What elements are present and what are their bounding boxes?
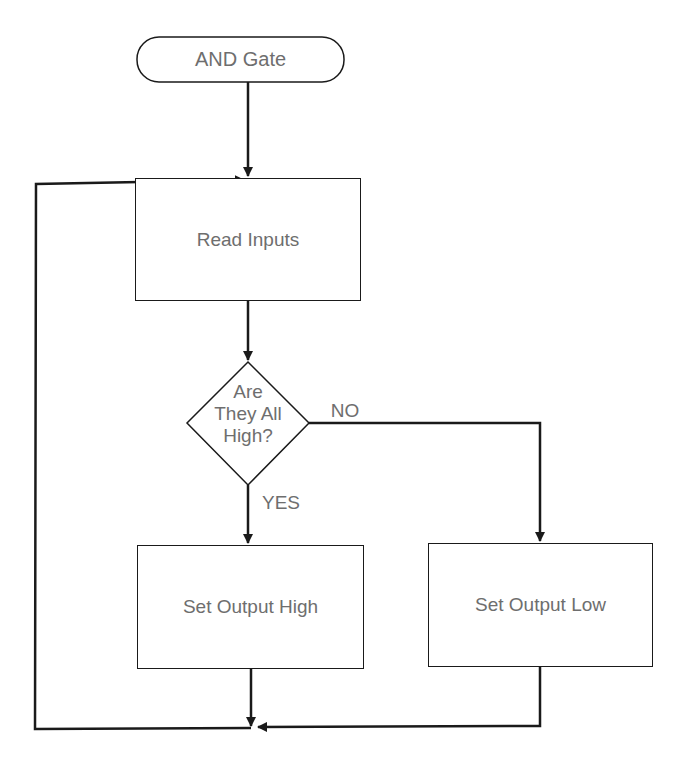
read-inputs-box: Read Inputs (135, 178, 361, 301)
no-branch-label: NO (322, 400, 368, 422)
set-output-low-box: Set Output Low (428, 543, 653, 667)
arrow-low-to-merge (258, 666, 540, 727)
decision-label-line1: Are (187, 380, 309, 404)
arrow-no-branch (309, 423, 540, 541)
set-output-low-label: Set Output Low (429, 544, 652, 666)
read-inputs-label: Read Inputs (136, 179, 360, 300)
decision-label-line3: High? (187, 424, 309, 448)
start-terminator-label: AND Gate (137, 37, 344, 82)
flowchart-canvas: AND Gate Read Inputs Are They All High? … (0, 0, 681, 761)
set-output-high-box: Set Output High (137, 545, 364, 669)
set-output-high-label: Set Output High (138, 546, 363, 668)
yes-branch-label: YES (256, 491, 306, 515)
decision-label-line2: They All (187, 402, 309, 426)
